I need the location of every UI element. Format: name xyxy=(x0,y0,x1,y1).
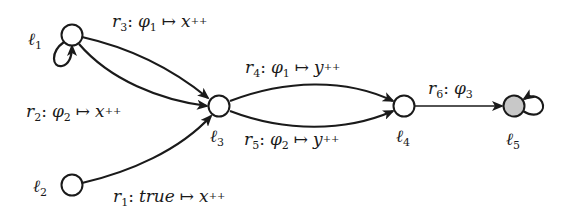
node-label-l2: ℓ2 xyxy=(33,176,47,199)
edge-label-r3: r3:φ1↦x++ xyxy=(112,11,207,34)
edge-r2 xyxy=(79,44,207,106)
node-label-l1: ℓ1 xyxy=(28,29,42,52)
edge-label-r2: r2:φ2↦x++ xyxy=(26,101,121,124)
node-l5 xyxy=(504,96,525,117)
node-l1 xyxy=(62,25,83,46)
edge-label-r6: r6:φ3 xyxy=(428,78,473,101)
edge-r5 xyxy=(230,111,393,127)
self-loop-l5 xyxy=(523,96,543,114)
node-l3 xyxy=(209,96,230,117)
automaton-diagram: ℓ1 ℓ2 ℓ3 ℓ4 ℓ5 r3:φ1↦x++ r2:φ2↦x++ r1:tr… xyxy=(0,0,581,216)
edge-label-r1: r1:true↦x++ xyxy=(113,186,225,209)
edge-label-r4: r4:φ1↦y++ xyxy=(245,57,340,80)
node-l4 xyxy=(394,96,415,117)
node-label-l5: ℓ5 xyxy=(506,129,520,152)
node-label-l4: ℓ4 xyxy=(396,126,410,149)
edge-label-r5: r5:φ2↦y++ xyxy=(244,129,339,152)
edge-r1 xyxy=(82,116,211,183)
node-l2 xyxy=(62,175,83,196)
edge-r4 xyxy=(230,84,393,101)
node-label-l3: ℓ3 xyxy=(210,126,224,149)
